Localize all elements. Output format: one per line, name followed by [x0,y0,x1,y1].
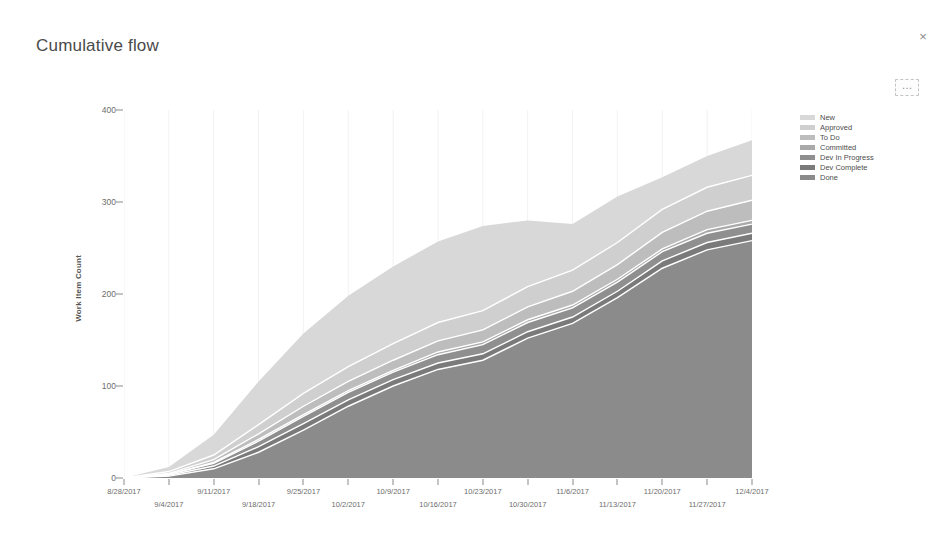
y-tick-label: 300 [102,197,116,207]
x-tick-label: 9/25/2017 [287,487,320,496]
cumulative-flow-chart: Work Item Count 0100200300400 8/28/20179… [0,0,944,538]
x-tick-label: 10/16/2017 [419,500,457,509]
x-tick-label: 12/4/2017 [735,487,768,496]
x-tick-label: 10/2/2017 [332,500,365,509]
legend-item-label: Committed [820,143,856,152]
legend-item-label: Approved [820,123,852,132]
x-tick-mark [393,479,394,485]
y-tick-mark [116,478,123,479]
x-tick-mark [303,479,304,485]
x-tick-label: 11/27/2017 [689,500,726,509]
x-tick-mark [707,479,708,485]
legend-item[interactable]: Committed [800,143,920,152]
x-tick-mark [258,479,259,485]
legend-item[interactable]: New [800,113,920,122]
plot-area: 0100200300400 8/28/20179/4/20179/11/2017… [124,110,752,478]
x-tick-mark [752,479,753,485]
legend-item-label: Dev Complete [820,163,868,172]
x-tick-label: 8/28/2017 [107,487,140,496]
y-tick-label: 100 [102,381,116,391]
x-tick-label: 10/30/2017 [509,500,547,509]
x-tick-mark [168,479,169,485]
x-tick-mark [527,479,528,485]
y-tick-mark [116,386,123,387]
legend: NewApprovedTo DoCommittedDev In Progress… [800,113,920,183]
y-axis-title: Work Item Count [74,255,88,322]
legend-swatch-icon [800,115,815,120]
legend-item-label: Dev In Progress [820,153,874,162]
x-tick-mark [213,479,214,485]
y-tick-mark [116,110,123,111]
legend-swatch-icon [800,165,815,170]
legend-swatch-icon [800,135,815,140]
x-tick-mark [617,479,618,485]
x-tick-label: 10/23/2017 [464,487,502,496]
legend-item-label: To Do [820,133,840,142]
x-tick-label: 9/18/2017 [242,500,275,509]
legend-swatch-icon [800,145,815,150]
legend-swatch-icon [800,125,815,130]
legend-item-label: Done [820,173,838,182]
legend-item[interactable]: Approved [800,123,920,132]
x-tick-label: 11/20/2017 [644,487,681,496]
x-tick-mark [124,479,125,485]
y-tick-label: 200 [102,289,116,299]
x-tick-label: 11/13/2017 [599,500,636,509]
x-tick-label: 9/4/2017 [154,500,183,509]
legend-swatch-icon [800,175,815,180]
x-tick-mark [482,479,483,485]
x-tick-label: 11/6/2017 [556,487,589,496]
x-tick-mark [572,479,573,485]
legend-item[interactable]: Dev In Progress [800,153,920,162]
legend-item[interactable]: Dev Complete [800,163,920,172]
legend-item-label: New [820,113,835,122]
y-tick-mark [116,202,123,203]
legend-swatch-icon [800,155,815,160]
x-tick-mark [348,479,349,485]
cumulative-flow-widget: Cumulative flow × … Work Item Count 0100… [0,0,944,538]
legend-item[interactable]: To Do [800,133,920,142]
x-tick-mark [662,479,663,485]
x-tick-mark [438,479,439,485]
stacked-area-svg [124,110,752,478]
y-tick-label: 400 [102,105,116,115]
x-tick-label: 10/9/2017 [376,487,409,496]
y-tick-mark [116,294,123,295]
legend-item[interactable]: Done [800,173,920,182]
x-tick-label: 9/11/2017 [197,487,230,496]
